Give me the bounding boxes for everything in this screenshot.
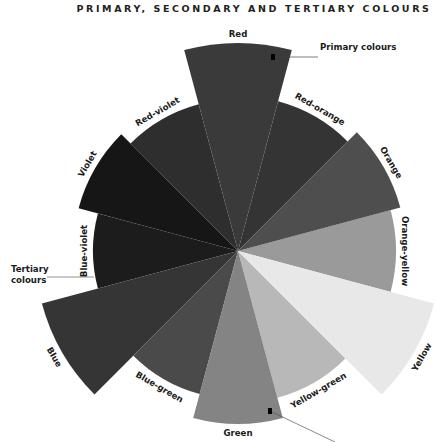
tertiary-callout-label-line2: colours bbox=[11, 275, 46, 285]
primary-callout-label: Primary colours bbox=[320, 42, 396, 52]
colour-wheel: RedRed-orangeOrangeOrange-yellowYellowYe… bbox=[0, 0, 436, 442]
secondary-marker bbox=[268, 408, 272, 414]
secondary-leader-line bbox=[272, 412, 335, 442]
wheel-segments bbox=[42, 43, 434, 424]
segment-label-red: Red bbox=[229, 29, 248, 39]
primary-marker bbox=[271, 54, 275, 60]
segment-label-orange-yellow: Orange-yellow bbox=[400, 216, 410, 286]
tertiary-callout-label-line1: Tertiary bbox=[11, 264, 49, 274]
segment-label-blue-violet: Blue-violet bbox=[79, 225, 89, 277]
segment-label-green: Green bbox=[223, 428, 252, 438]
